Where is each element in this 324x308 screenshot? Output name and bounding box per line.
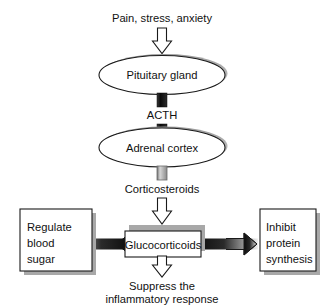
- diagram-canvas: Pain, stress, anxiety Pituitary gland AC…: [0, 0, 324, 308]
- arrow-glucocorticoids-to-suppress-inflammatory: [153, 256, 172, 277]
- pituitary-label: Pituitary gland: [127, 69, 198, 81]
- suppress-line-2: inflammatory response: [105, 293, 218, 305]
- suppress-line-1: Suppress the: [129, 280, 195, 292]
- stimulus-label: Pain, stress, anxiety: [112, 12, 213, 24]
- regulate-line-3: sugar: [27, 253, 55, 265]
- connector-pituitary-to-acth: [157, 93, 167, 107]
- hpa-axis-diagram: Pain, stress, anxiety Pituitary gland AC…: [0, 0, 324, 308]
- connector-adrenal-to-corticosteroids: [157, 166, 167, 180]
- inhibit-line-3: synthesis: [266, 253, 313, 265]
- arrow-glucocorticoids-to-inhibit-protein-synthesis: [196, 233, 258, 255]
- inhibit-line-2: protein: [266, 237, 300, 249]
- acth-label: ACTH: [147, 109, 177, 121]
- arrow-stimulus-to-pituitary: [153, 28, 172, 54]
- inhibit-line-1: Inhibit: [266, 221, 297, 233]
- pituitary-gland-node: Pituitary gland: [99, 54, 228, 95]
- regulate-line-2: blood: [27, 237, 54, 249]
- glucocorticoids-node: Glucocorticoids: [125, 225, 205, 257]
- adrenal-label: Adrenal cortex: [126, 142, 199, 154]
- adrenal-cortex-node: Adrenal cortex: [99, 127, 228, 168]
- regulate-blood-sugar-node: Regulate blood sugar: [20, 209, 96, 275]
- inhibit-protein-synthesis-node: Inhibit protein synthesis: [260, 209, 320, 275]
- arrow-corticosteroids-to-glucocorticoids: [153, 198, 172, 224]
- glucocorticoids-label: Glucocorticoids: [125, 239, 202, 251]
- regulate-line-1: Regulate: [27, 221, 72, 233]
- corticosteroids-label: Corticosteroids: [125, 183, 200, 195]
